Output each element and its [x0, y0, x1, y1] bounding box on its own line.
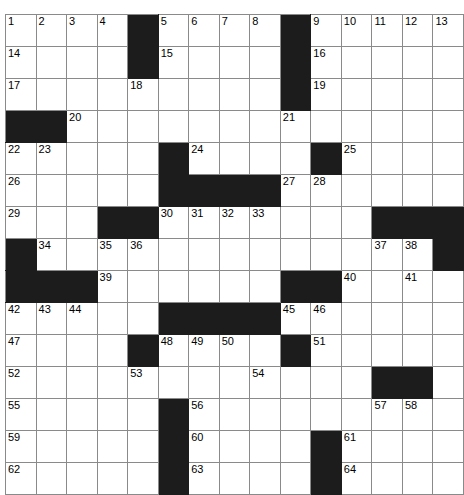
letter-cell[interactable]	[128, 143, 159, 175]
letter-cell[interactable]	[128, 399, 159, 431]
letter-cell[interactable]	[97, 399, 128, 431]
letter-cell[interactable]: 54	[250, 367, 281, 399]
letter-cell[interactable]	[189, 111, 220, 143]
letter-cell[interactable]	[311, 399, 342, 431]
letter-cell[interactable]	[402, 111, 433, 143]
letter-cell[interactable]	[36, 367, 67, 399]
letter-cell[interactable]: 1	[6, 15, 37, 47]
letter-cell[interactable]	[250, 239, 281, 271]
letter-cell[interactable]	[189, 79, 220, 111]
letter-cell[interactable]: 3	[67, 15, 98, 47]
letter-cell[interactable]	[402, 175, 433, 207]
letter-cell[interactable]	[97, 175, 128, 207]
letter-cell[interactable]	[280, 431, 311, 463]
letter-cell[interactable]	[341, 79, 372, 111]
letter-cell[interactable]	[402, 303, 433, 335]
letter-cell[interactable]	[372, 143, 403, 175]
letter-cell[interactable]	[36, 335, 67, 367]
letter-cell[interactable]: 37	[372, 239, 403, 271]
letter-cell[interactable]: 62	[6, 463, 37, 495]
letter-cell[interactable]: 16	[311, 47, 342, 79]
letter-cell[interactable]	[67, 143, 98, 175]
letter-cell[interactable]	[341, 111, 372, 143]
letter-cell[interactable]: 26	[6, 175, 37, 207]
letter-cell[interactable]	[433, 431, 464, 463]
letter-cell[interactable]	[158, 239, 189, 271]
letter-cell[interactable]	[250, 47, 281, 79]
letter-cell[interactable]	[128, 431, 159, 463]
letter-cell[interactable]	[36, 79, 67, 111]
letter-cell[interactable]	[280, 463, 311, 495]
letter-cell[interactable]: 21	[280, 111, 311, 143]
letter-cell[interactable]	[189, 271, 220, 303]
letter-cell[interactable]	[219, 399, 250, 431]
letter-cell[interactable]	[433, 399, 464, 431]
letter-cell[interactable]	[311, 367, 342, 399]
letter-cell[interactable]	[433, 47, 464, 79]
letter-cell[interactable]	[128, 175, 159, 207]
letter-cell[interactable]	[219, 47, 250, 79]
letter-cell[interactable]	[433, 271, 464, 303]
letter-cell[interactable]	[97, 335, 128, 367]
letter-cell[interactable]	[372, 175, 403, 207]
letter-cell[interactable]: 44	[67, 303, 98, 335]
letter-cell[interactable]: 11	[372, 15, 403, 47]
letter-cell[interactable]: 13	[433, 15, 464, 47]
letter-cell[interactable]	[372, 47, 403, 79]
letter-cell[interactable]: 58	[402, 399, 433, 431]
letter-cell[interactable]: 23	[36, 143, 67, 175]
letter-cell[interactable]: 30	[158, 207, 189, 239]
letter-cell[interactable]	[97, 79, 128, 111]
letter-cell[interactable]	[219, 431, 250, 463]
letter-cell[interactable]	[67, 399, 98, 431]
letter-cell[interactable]	[219, 463, 250, 495]
letter-cell[interactable]: 19	[311, 79, 342, 111]
letter-cell[interactable]	[311, 111, 342, 143]
letter-cell[interactable]	[219, 143, 250, 175]
letter-cell[interactable]	[280, 367, 311, 399]
letter-cell[interactable]	[433, 175, 464, 207]
letter-cell[interactable]: 36	[128, 239, 159, 271]
letter-cell[interactable]	[372, 303, 403, 335]
letter-cell[interactable]	[402, 47, 433, 79]
letter-cell[interactable]: 61	[341, 431, 372, 463]
letter-cell[interactable]	[97, 463, 128, 495]
letter-cell[interactable]	[341, 303, 372, 335]
letter-cell[interactable]	[97, 47, 128, 79]
letter-cell[interactable]	[311, 239, 342, 271]
letter-cell[interactable]	[67, 47, 98, 79]
letter-cell[interactable]: 17	[6, 79, 37, 111]
letter-cell[interactable]	[341, 47, 372, 79]
letter-cell[interactable]	[402, 335, 433, 367]
letter-cell[interactable]	[433, 367, 464, 399]
letter-cell[interactable]	[219, 79, 250, 111]
letter-cell[interactable]	[67, 431, 98, 463]
letter-cell[interactable]	[280, 239, 311, 271]
letter-cell[interactable]	[280, 207, 311, 239]
letter-cell[interactable]	[341, 399, 372, 431]
letter-cell[interactable]	[341, 175, 372, 207]
letter-cell[interactable]: 39	[97, 271, 128, 303]
letter-cell[interactable]: 28	[311, 175, 342, 207]
letter-cell[interactable]: 4	[97, 15, 128, 47]
letter-cell[interactable]	[158, 271, 189, 303]
letter-cell[interactable]: 60	[189, 431, 220, 463]
letter-cell[interactable]: 38	[402, 239, 433, 271]
letter-cell[interactable]	[341, 335, 372, 367]
letter-cell[interactable]: 7	[219, 15, 250, 47]
letter-cell[interactable]: 46	[311, 303, 342, 335]
letter-cell[interactable]: 29	[6, 207, 37, 239]
letter-cell[interactable]	[372, 463, 403, 495]
letter-cell[interactable]: 2	[36, 15, 67, 47]
letter-cell[interactable]: 57	[372, 399, 403, 431]
letter-cell[interactable]	[36, 207, 67, 239]
letter-cell[interactable]: 40	[341, 271, 372, 303]
letter-cell[interactable]	[67, 175, 98, 207]
letter-cell[interactable]: 53	[128, 367, 159, 399]
letter-cell[interactable]	[67, 367, 98, 399]
letter-cell[interactable]	[158, 111, 189, 143]
letter-cell[interactable]: 52	[6, 367, 37, 399]
letter-cell[interactable]	[219, 367, 250, 399]
letter-cell[interactable]	[128, 111, 159, 143]
letter-cell[interactable]	[280, 399, 311, 431]
